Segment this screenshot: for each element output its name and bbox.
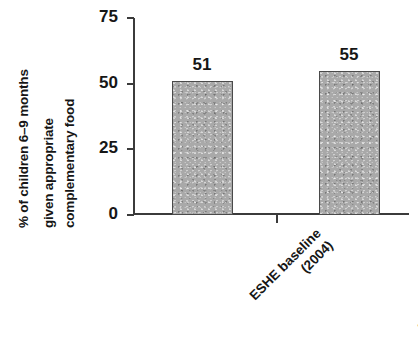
bar-chart: % of children 6–9 months given appropria… — [0, 0, 418, 362]
x-tick-midpoint — [276, 215, 278, 223]
x-category-label-1-line-1: community — [400, 225, 418, 322]
plot-area: 0 25 50 75 51 55 ESHE baseline (2004) co… — [133, 16, 409, 216]
y-tick-label-1: 25 — [99, 138, 118, 158]
y-tick-label-2: 50 — [99, 73, 118, 93]
x-category-label-1-line-2: assessment (2006) — [412, 237, 418, 334]
x-category-label-community-assessment-2006: community assessment (2006) — [400, 225, 418, 334]
bar-community-assessment-2006 — [319, 71, 380, 215]
y-tick-0: 0 — [127, 214, 134, 216]
y-axis-line — [133, 18, 135, 215]
y-tick-3: 75 — [127, 17, 134, 19]
y-tick-label-0: 0 — [109, 204, 118, 224]
x-category-label-eshe-baseline-2004: ESHE baseline (2004) — [246, 225, 337, 316]
y-axis-title-line-1: % of children 6–9 months — [16, 69, 31, 228]
y-tick-label-3: 75 — [99, 7, 118, 27]
bar-value-label-1: 55 — [340, 45, 359, 65]
y-axis-title-line-3: complementary food — [62, 99, 77, 228]
y-tick-2: 50 — [127, 83, 134, 85]
y-axis-title-line-2: given appropriate — [41, 118, 56, 228]
bar-eshe-baseline-2004 — [172, 81, 233, 215]
y-axis-title: % of children 6–9 months given appropria… — [0, 0, 132, 232]
y-tick-1: 25 — [127, 148, 134, 150]
bar-value-label-0: 51 — [193, 55, 212, 75]
